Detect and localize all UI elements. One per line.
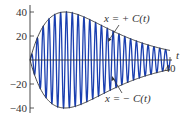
upper-envelope-label: x = + C(t) — [103, 12, 150, 25]
y-tick-label-40: 40 — [16, 6, 28, 18]
chart: 40 20 −20 −40 40 t x = + C(t) x = − C(t) — [0, 0, 188, 119]
x-axis-label: t — [176, 49, 180, 61]
y-tick-label-neg40: −40 — [10, 102, 28, 114]
x-tick-label-40: 40 — [165, 62, 177, 74]
y-tick-label-neg20: −20 — [10, 78, 28, 90]
lower-envelope-label: x = − C(t) — [104, 92, 151, 105]
y-tick-label-20: 20 — [16, 30, 28, 42]
